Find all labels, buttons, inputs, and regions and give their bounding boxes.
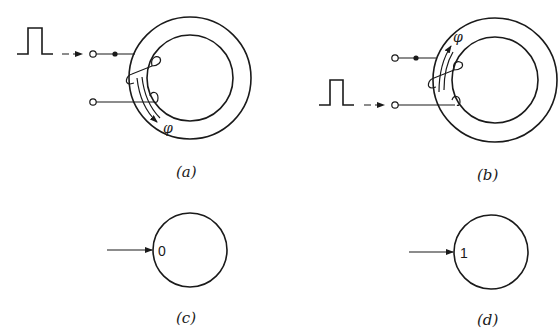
panel-label-c: (c) xyxy=(176,309,196,327)
terminal-bottom xyxy=(392,102,398,108)
core-inner-ring xyxy=(147,35,233,121)
panel-a: φ (a) xyxy=(17,17,251,181)
junction-dot xyxy=(413,55,418,60)
flux-arrow xyxy=(439,46,451,92)
panel-label-d: (d) xyxy=(477,311,498,329)
flux-symbol: φ xyxy=(453,29,463,45)
terminal-top xyxy=(90,51,96,57)
junction-dot xyxy=(112,51,117,56)
pulse-icon xyxy=(17,28,53,54)
panel-c: 0 (c) xyxy=(107,213,227,327)
terminal-top xyxy=(392,55,398,61)
core-inner-ring xyxy=(452,37,538,123)
panel-label-b: (b) xyxy=(477,166,498,184)
core-memory-diagram: φ (a) φ (b) 0 (c) 1 (d) xyxy=(0,0,558,334)
terminal-bottom xyxy=(90,99,96,105)
flux-symbol: φ xyxy=(163,120,173,136)
state-value: 0 xyxy=(158,243,166,259)
panel-b: φ (b) xyxy=(319,18,557,184)
state-value: 1 xyxy=(460,245,468,261)
panel-d: 1 (d) xyxy=(409,215,528,329)
pulse-icon xyxy=(319,80,354,105)
panel-label-a: (a) xyxy=(176,163,197,181)
